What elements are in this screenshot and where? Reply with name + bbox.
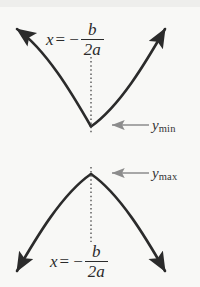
formula-numerator: b — [85, 243, 108, 261]
formula-minus-sign: − — [67, 30, 81, 49]
formula-minus-sign: − — [71, 252, 85, 271]
formula-variable-x: x — [46, 30, 54, 49]
upper-vertex-formula: x=− b 2a — [46, 22, 104, 60]
ymax-variable: y — [152, 165, 159, 181]
formula-equals-sign: = — [54, 30, 68, 49]
ymax-label: ymax — [152, 166, 177, 181]
formula-numerator: b — [81, 21, 104, 39]
formula-fraction: b 2a — [85, 243, 108, 281]
ymin-label: ymin — [152, 118, 176, 133]
formula-variable-x: x — [50, 252, 58, 271]
ymin-variable: y — [152, 117, 159, 133]
formula-equals-sign: = — [58, 252, 72, 271]
formula-denominator: 2a — [81, 39, 104, 60]
lower-vertex-formula: x=− b 2a — [50, 244, 108, 282]
ymax-subscript: max — [159, 171, 178, 182]
formula-fraction: b 2a — [81, 21, 104, 59]
formula-denominator: 2a — [85, 261, 108, 282]
ymin-subscript: min — [159, 123, 176, 134]
